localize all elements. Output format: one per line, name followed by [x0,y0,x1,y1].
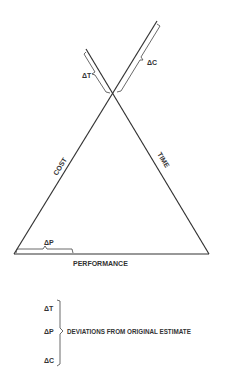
delta-c-label: ΔC [147,59,157,66]
time-label: TIME [156,151,171,169]
legend-item-delta-t: ΔT [44,305,54,312]
legend-item-delta-p: ΔP [44,328,54,335]
delta-p-label: ΔP [44,239,54,246]
performance-label: PERFORMANCE [73,260,128,267]
legend-item-delta-c: ΔC [44,357,54,364]
delta-c-brace [117,24,160,92]
time-line [86,49,209,254]
project-triangle-diagram: COST TIME PERFORMANCE ΔC ΔT ΔP ΔT ΔP ΔC … [0,0,229,379]
delta-p-brace [16,246,73,253]
cost-label: COST [52,156,69,177]
legend-brace [57,300,63,366]
legend-caption: DEVIATIONS FROM ORIGINAL ESTIMATE [67,328,191,335]
delta-t-label: ΔT [82,72,92,79]
